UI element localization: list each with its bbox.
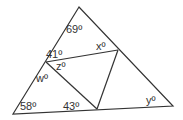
angle-label-y: yº	[146, 94, 156, 106]
triangle-diagram: 69º 41º xº zº wº 58º 43º yº	[0, 0, 183, 120]
angle-label-x: xº	[96, 40, 106, 52]
angle-label-z: zº	[56, 60, 66, 72]
angle-label-w: wº	[35, 72, 48, 84]
angle-label-41: 41º	[46, 48, 62, 60]
angle-label-69: 69º	[66, 23, 82, 35]
segment-right-bottom	[97, 50, 118, 109]
angle-label-43: 43º	[63, 100, 79, 112]
angle-label-58: 58º	[20, 100, 36, 112]
